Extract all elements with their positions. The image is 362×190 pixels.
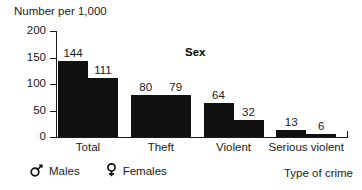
bar-chart: Number per 1,000 Sex Type of crime 05010… bbox=[0, 0, 362, 190]
y-axis-tick-label: 150 bbox=[0, 52, 46, 64]
bar-value-label: 64 bbox=[198, 90, 240, 102]
bar-value-label: 111 bbox=[82, 65, 124, 77]
legend-entry-males[interactable]: Males bbox=[30, 164, 80, 178]
bar-value-label: 144 bbox=[52, 48, 94, 60]
y-axis-tick bbox=[50, 111, 56, 112]
y-axis-tick-label: 100 bbox=[0, 78, 46, 90]
plot-area: 14411180796432136 bbox=[57, 31, 348, 137]
venus-symbol bbox=[106, 163, 117, 177]
y-axis-tick-label: 50 bbox=[0, 105, 46, 117]
x-axis-line bbox=[56, 137, 348, 138]
bar bbox=[131, 95, 161, 137]
bar-value-label: 32 bbox=[228, 107, 270, 119]
x-axis-category-label: Serious violent bbox=[256, 141, 356, 153]
y-axis-title: Number per 1,000 bbox=[14, 5, 107, 18]
bar bbox=[234, 120, 264, 137]
bar bbox=[306, 134, 336, 137]
x-axis-title: Type of crime bbox=[284, 167, 353, 179]
y-axis-tick bbox=[50, 84, 56, 85]
legend: Males Females bbox=[30, 164, 167, 178]
bar-value-label: 79 bbox=[155, 82, 197, 94]
legend-label-males: Males bbox=[49, 165, 80, 177]
bar-value-label: 6 bbox=[300, 121, 342, 133]
bar bbox=[161, 95, 191, 137]
bar bbox=[88, 78, 118, 137]
y-axis-tick bbox=[50, 31, 56, 32]
legend-label-females: Females bbox=[123, 165, 167, 177]
y-axis-tick-label: 200 bbox=[0, 25, 46, 37]
y-axis-tick bbox=[50, 137, 56, 138]
legend-entry-females[interactable]: Females bbox=[106, 164, 167, 178]
mars-symbol bbox=[30, 163, 43, 177]
